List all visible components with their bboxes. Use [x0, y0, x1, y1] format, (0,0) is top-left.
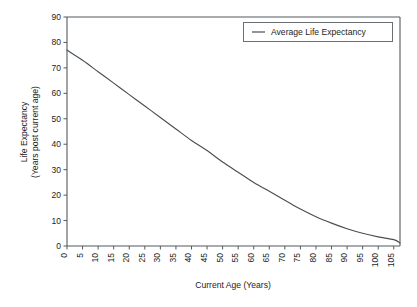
- x-tick-label: 100: [370, 253, 380, 267]
- x-tick-label: 20: [121, 253, 131, 263]
- y-tick-label: 40: [52, 139, 62, 149]
- chart-figure: 0102030405060708090 05101520253035404550…: [0, 0, 417, 307]
- x-tick-label: 95: [355, 253, 365, 263]
- y-tick-label: 70: [52, 63, 62, 73]
- x-axis-title: Current Age (Years): [195, 280, 271, 290]
- x-tick-label: 10: [90, 253, 100, 263]
- y-tick-label: 60: [52, 88, 62, 98]
- x-tick-label: 70: [277, 253, 287, 263]
- y-axis-title-line1: Life Expectancy: [19, 101, 29, 162]
- y-tick-label: 0: [56, 241, 61, 251]
- x-tick-label: 5: [75, 253, 85, 258]
- x-tick-label: 60: [246, 253, 256, 263]
- legend-label-average-life-expectancy: Average Life Expectancy: [271, 27, 367, 37]
- x-tick-label: 35: [168, 253, 178, 263]
- x-tick-label: 75: [292, 253, 302, 263]
- x-tick-label: 15: [106, 253, 116, 263]
- x-tick-label: 105: [386, 253, 396, 267]
- y-axis-title-line2: (Years post current age): [30, 86, 40, 178]
- x-tick-label: 30: [152, 253, 162, 263]
- x-tick-label: 90: [339, 253, 349, 263]
- x-tick-label: 25: [137, 253, 147, 263]
- chart-legend[interactable]: Average Life Expectancy: [244, 23, 393, 42]
- y-tick-label: 90: [52, 12, 62, 22]
- y-tick-label: 20: [52, 190, 62, 200]
- x-tick-label: 45: [199, 253, 209, 263]
- x-tick-label: 85: [324, 253, 334, 263]
- y-tick-label: 30: [52, 165, 62, 175]
- x-tick-label: 50: [215, 253, 225, 263]
- x-tick-label: 80: [308, 253, 318, 263]
- life-expectancy-line-chart: 0102030405060708090 05101520253035404550…: [0, 0, 417, 307]
- x-tick-label: 55: [230, 253, 240, 263]
- y-tick-label: 50: [52, 114, 62, 124]
- x-tick-label: 0: [59, 253, 69, 258]
- plot-area-background: [67, 17, 400, 246]
- y-tick-label: 80: [52, 37, 62, 47]
- y-tick-label: 10: [52, 216, 62, 226]
- x-tick-label: 65: [261, 253, 271, 263]
- x-tick-label: 40: [183, 253, 193, 263]
